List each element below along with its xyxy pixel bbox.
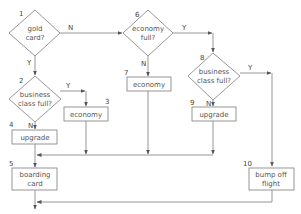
edge-label-2-n: N	[28, 122, 33, 130]
edge-label-1-n: N	[68, 24, 73, 32]
node-number-4: 4	[9, 121, 14, 129]
edge-label-1-y: Y	[26, 59, 32, 67]
edge-label-6-y: Y	[181, 24, 187, 32]
process-economy-3: economy	[64, 107, 108, 121]
node-number-6: 6	[135, 11, 140, 19]
svg-text:gold: gold	[27, 25, 42, 33]
svg-text:upgrade: upgrade	[20, 134, 49, 142]
node-number-7: 7	[124, 69, 128, 77]
process-economy-7: economy	[127, 77, 171, 91]
decision-business-class-full-left: business class full?	[9, 76, 61, 122]
decision-business-class-full-right: business class full?	[188, 53, 240, 100]
node-number-8: 8	[200, 54, 204, 62]
decision-gold-card: gold card?	[9, 10, 60, 56]
svg-text:card: card	[27, 180, 42, 188]
svg-text:class full?: class full?	[197, 77, 231, 85]
svg-text:upgrade: upgrade	[199, 111, 228, 119]
svg-text:business: business	[20, 91, 51, 99]
process-bump-off-flight: bump off flight	[249, 168, 294, 190]
svg-text:bump off: bump off	[255, 171, 287, 179]
svg-text:economy: economy	[70, 111, 102, 119]
node-number-1: 1	[19, 10, 23, 18]
svg-text:business: business	[199, 68, 230, 76]
process-boarding-card: boarding card	[12, 168, 57, 190]
svg-text:class full?: class full?	[18, 100, 52, 108]
edge-label-2-y: Y	[65, 82, 71, 90]
svg-text:economy: economy	[133, 81, 165, 89]
svg-text:flight: flight	[262, 180, 280, 188]
svg-text:full?: full?	[141, 34, 156, 42]
node-number-2: 2	[19, 77, 23, 85]
node-number-10: 10	[243, 160, 252, 168]
flowchart: N Y Y N Y N Y N gold card? 1 business cl…	[0, 0, 301, 214]
svg-text:boarding: boarding	[19, 171, 50, 179]
svg-text:card?: card?	[25, 34, 44, 42]
decision-economy-full: economy full?	[123, 10, 173, 56]
edge-label-8-y: Y	[247, 64, 253, 72]
node-number-5: 5	[9, 160, 13, 168]
node-number-9: 9	[190, 99, 194, 107]
process-upgrade-9: upgrade	[192, 107, 236, 121]
svg-text:economy: economy	[132, 25, 164, 33]
process-upgrade-4: upgrade	[12, 130, 57, 144]
edge-label-6-n: N	[141, 60, 146, 68]
node-number-3: 3	[105, 98, 109, 106]
